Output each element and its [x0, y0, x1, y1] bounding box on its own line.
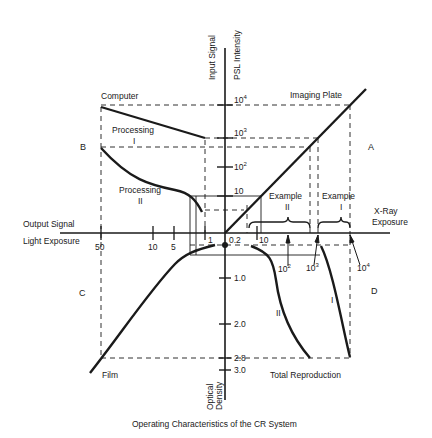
light-exposure-label: Light Exposure	[23, 236, 80, 246]
processing-1-label: Processing	[112, 125, 154, 135]
quadrant-c-label: C	[79, 288, 86, 298]
total-reproduction-ii-curve	[251, 246, 310, 358]
light-tick-1: 1	[208, 235, 213, 245]
light-tick-50: 50	[95, 242, 105, 252]
processing-2-numeral: II	[138, 196, 143, 206]
film-curve	[90, 245, 215, 373]
exposure-label: Exposure	[372, 217, 408, 227]
example-2-numeral: II	[285, 202, 290, 212]
output-signal-label: Output Signal	[23, 219, 75, 229]
total-reproduction-i-label: I	[331, 295, 333, 305]
psl-intensity-label: PSL Intensity	[232, 29, 242, 80]
psl-tick-1e2: 102	[234, 161, 247, 172]
processing-2-label: Processing	[119, 185, 161, 195]
xray-tick-1e3: 103	[306, 262, 319, 273]
quadrant-a-label: A	[368, 142, 374, 152]
origin-dot	[222, 242, 228, 248]
total-reproduction-ii-label: II	[276, 308, 281, 318]
psl-tick-1e4: 104	[234, 94, 247, 105]
processing-2-curve	[101, 148, 202, 212]
processing-1-numeral: I	[133, 136, 135, 146]
example-1-label: Example	[322, 191, 355, 201]
x-ray-label: X-Ray	[374, 206, 398, 216]
quadrant-b-label: B	[80, 142, 86, 152]
film-label: Film	[102, 370, 118, 380]
density-label: Density	[214, 381, 224, 410]
od-tick-3.0: 3.0	[234, 365, 246, 375]
xray-tick-1e4: 104	[357, 262, 370, 273]
imaging-plate-label: Imaging Plate	[290, 90, 342, 100]
psl-tick-1e3: 103	[234, 127, 247, 138]
example-2-label: Example	[269, 191, 302, 201]
xray-tick-0.2: 0.2	[229, 235, 241, 245]
xray-tick-1e2: 102	[278, 263, 291, 274]
od-tick-1.0: 1.0	[234, 273, 246, 283]
quadrant-d-label: D	[371, 286, 378, 296]
total-reproduction-i-curve	[321, 246, 350, 357]
input-signal-label: Input Signal	[207, 35, 217, 80]
example-2-brace	[249, 217, 310, 228]
computer-label: Computer	[101, 91, 138, 101]
example-1-brace	[318, 217, 350, 228]
od-tick-2.8: 2.8	[234, 353, 246, 363]
cr-system-diagram: Input Signal PSL Intensity Optical Densi…	[0, 0, 432, 438]
light-tick-10: 10	[148, 242, 158, 252]
xray-tick-10: 10	[259, 235, 269, 245]
psl-tick-10: 10	[234, 186, 244, 196]
od-tick-2.0: 2.0	[234, 319, 246, 329]
figure-caption: Operating Characteristics of the CR Syst…	[132, 419, 297, 429]
light-tick-5: 5	[171, 242, 176, 252]
total-reproduction-label: Total Reproduction	[270, 370, 341, 380]
example-1-numeral: I	[340, 202, 342, 212]
